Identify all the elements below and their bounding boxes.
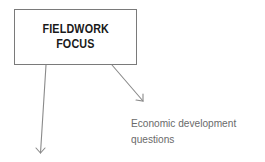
label-line-2: questions: [131, 131, 245, 147]
label-line-1: Economic development: [131, 115, 245, 131]
arrow-to-economic-development: [112, 65, 143, 101]
economic-development-label: Economic development questions: [131, 115, 245, 147]
arrow-down-unlabeled: [36, 65, 46, 153]
